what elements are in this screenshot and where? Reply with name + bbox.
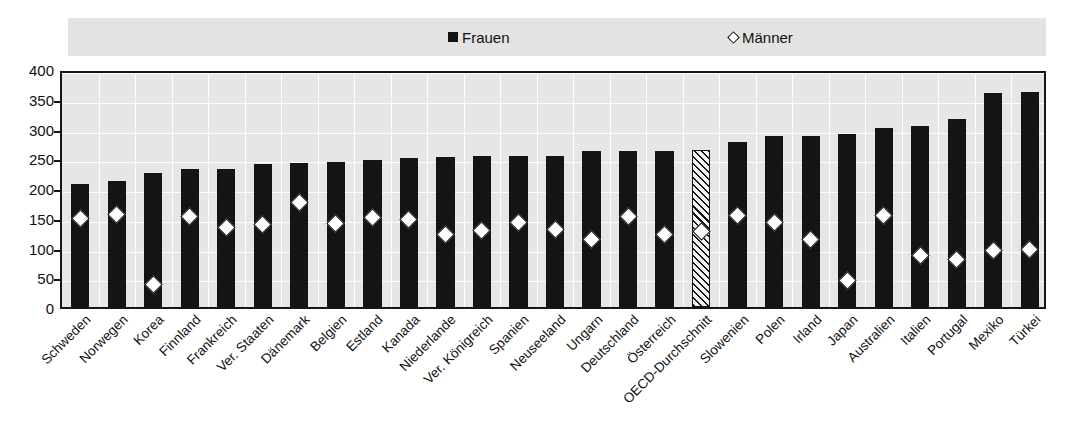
chart-legend: Frauen Männer xyxy=(68,18,1046,56)
gridline-vertical xyxy=(318,73,319,307)
gridline-vertical xyxy=(391,73,392,307)
gridline-vertical xyxy=(610,73,611,307)
open-diamond-icon xyxy=(217,218,235,236)
y-axis-tick-label: 200 xyxy=(8,181,54,198)
gridline-vertical xyxy=(865,73,866,307)
filled-square-icon xyxy=(448,32,458,42)
gridline-vertical xyxy=(938,73,939,307)
gridline-vertical xyxy=(792,73,793,307)
y-axis-tick-label: 50 xyxy=(8,270,54,287)
legend-label-maenner: Männer xyxy=(742,29,793,46)
open-diamond-icon xyxy=(546,220,564,238)
open-diamond-icon xyxy=(655,226,673,244)
bar xyxy=(802,136,820,307)
gridline-vertical xyxy=(464,73,465,307)
gridline-horizontal xyxy=(62,103,1044,104)
legend-item-maenner: Männer xyxy=(728,29,793,46)
data-point-marker xyxy=(512,216,525,229)
gridline-vertical xyxy=(573,73,574,307)
open-diamond-icon xyxy=(144,275,162,293)
open-diamond-icon xyxy=(801,230,819,248)
open-diamond-icon xyxy=(582,230,600,248)
data-point-marker xyxy=(220,221,233,234)
gridline-vertical xyxy=(756,73,757,307)
gridline-vertical xyxy=(719,73,720,307)
gridline-vertical xyxy=(99,73,100,307)
bar xyxy=(582,151,600,307)
open-diamond-icon xyxy=(765,214,783,232)
bar xyxy=(948,119,966,307)
bar xyxy=(254,164,272,307)
data-point-marker xyxy=(74,212,87,225)
open-diamond-icon xyxy=(254,216,272,234)
open-diamond-icon xyxy=(984,242,1002,260)
x-axis-tick-label: Türkei xyxy=(1006,312,1043,349)
bar xyxy=(217,169,235,307)
y-axis-tick-label: 250 xyxy=(8,151,54,168)
open-diamond-icon xyxy=(509,214,527,232)
data-point-marker xyxy=(366,211,379,224)
data-point-marker xyxy=(329,217,342,230)
open-diamond-icon xyxy=(911,246,929,264)
y-axis-tick-label: 400 xyxy=(8,62,54,79)
open-diamond-icon xyxy=(728,32,738,42)
bar xyxy=(327,162,345,307)
bar xyxy=(71,184,89,307)
x-axis-tick-label: Mexiko xyxy=(966,312,1007,353)
gridline-vertical xyxy=(683,73,684,307)
open-diamond-icon xyxy=(874,207,892,225)
bar xyxy=(363,160,381,307)
gridline-vertical xyxy=(208,73,209,307)
x-axis-tick-label: Belgien xyxy=(307,312,349,354)
open-diamond-icon xyxy=(181,207,199,225)
y-axis-tick-label: 350 xyxy=(8,92,54,109)
bar xyxy=(619,151,637,307)
x-axis-tick-label: Estland xyxy=(344,312,386,354)
x-axis-tick-label: Portugal xyxy=(924,312,970,358)
gridline-vertical xyxy=(902,73,903,307)
data-point-marker xyxy=(256,218,269,231)
data-point-marker xyxy=(475,224,488,237)
y-axis-tick-label: 150 xyxy=(8,211,54,228)
data-point-marker xyxy=(731,209,744,222)
open-diamond-icon xyxy=(619,208,637,226)
data-point-marker xyxy=(147,278,160,291)
data-point-marker xyxy=(768,216,781,229)
data-point-marker xyxy=(658,228,671,241)
gridline-vertical xyxy=(829,73,830,307)
open-diamond-icon xyxy=(473,221,491,239)
data-point-marker xyxy=(293,196,306,209)
data-point-marker xyxy=(841,274,854,287)
data-point-marker xyxy=(585,233,598,246)
data-point-marker xyxy=(950,253,963,266)
chart-page: Frauen Männer 400350300250200150100500 S… xyxy=(0,0,1069,444)
x-axis-labels: SchwedenNorwegenKoreaFinnlandFrankreichV… xyxy=(60,312,1046,432)
data-point-marker xyxy=(804,233,817,246)
gridline-vertical xyxy=(245,73,246,307)
x-axis-tick-label: Irland xyxy=(790,312,824,346)
open-diamond-icon xyxy=(290,193,308,211)
data-point-marker xyxy=(402,213,415,226)
gridline-vertical xyxy=(1011,73,1012,307)
open-diamond-icon xyxy=(108,205,126,223)
data-point-marker xyxy=(622,210,635,223)
data-point-marker xyxy=(695,225,708,238)
open-diamond-icon xyxy=(71,209,89,227)
gridline-vertical xyxy=(975,73,976,307)
open-diamond-icon xyxy=(838,271,856,289)
x-axis-tick-label: Polen xyxy=(753,312,788,347)
plot-area xyxy=(60,71,1046,309)
data-point-marker xyxy=(877,209,890,222)
y-axis-tick-label: 300 xyxy=(8,122,54,139)
bar xyxy=(911,126,929,307)
bar xyxy=(984,93,1002,307)
data-point-marker xyxy=(549,223,562,236)
bar xyxy=(290,163,308,307)
gridline-vertical xyxy=(354,73,355,307)
open-diamond-icon xyxy=(400,210,418,228)
bar xyxy=(509,156,527,307)
gridline-horizontal xyxy=(62,133,1044,134)
y-axis-tick-label: 0 xyxy=(8,300,54,317)
data-point-marker xyxy=(439,228,452,241)
open-diamond-icon xyxy=(436,225,454,243)
